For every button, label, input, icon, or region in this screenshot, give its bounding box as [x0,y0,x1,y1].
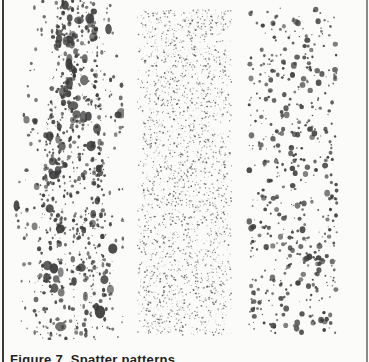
spatter-panel-medium-drops [245,0,345,340]
spatter-panel-coarse [12,0,124,340]
left-border [2,0,4,362]
right-border [366,0,368,362]
figure-caption: Figure 7. Spatter patterns [10,352,175,362]
figure-frame: Figure 7. Spatter patterns [0,0,369,362]
spatter-panel-fine-mist [137,0,232,340]
